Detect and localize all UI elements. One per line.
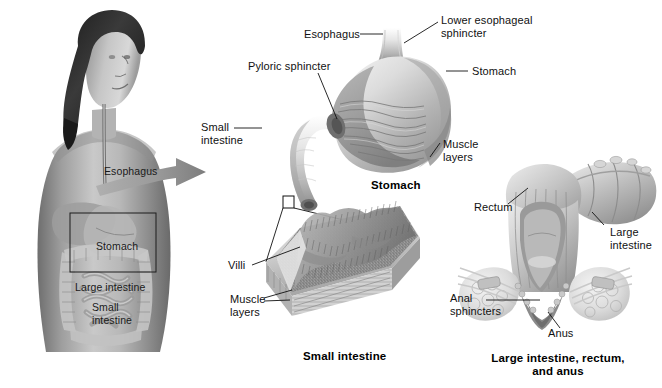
body-label-stomach: Stomach: [96, 240, 138, 253]
stomach-label-pyloric-sphincter: Pyloric sphincter: [248, 60, 330, 73]
large-intestine-label-anus: Anus: [548, 327, 573, 340]
small-intestine-label-villi: Villi: [228, 259, 245, 272]
stomach-label-stomach: Stomach: [472, 65, 516, 78]
large-intestine-label-large-intestine: Large intestine: [610, 226, 652, 251]
small-intestine-label-muscle-layers: Muscle layers: [230, 293, 265, 318]
stomach-label-lower-esophageal-sphincter: Lower esophageal sphincter: [441, 14, 533, 39]
small-intestine-panel-art: [252, 196, 420, 316]
body-label-small-intestine: Small intestine: [92, 301, 132, 326]
large-intestine-panel-caption: Large intestine, rectum, and anus: [466, 352, 650, 378]
small-intestine-panel-caption: Small intestine: [303, 350, 386, 363]
digestive-system-figure: Esophagus Stomach Large intestine Small …: [0, 0, 662, 388]
stomach-panel-caption: Stomach: [371, 179, 421, 192]
stomach-label-muscle-layers: Muscle layers: [443, 138, 478, 163]
body-label-esophagus: Esophagus: [104, 165, 157, 178]
body-label-large-intestine: Large intestine: [75, 281, 145, 294]
large-intestine-label-rectum: Rectum: [474, 201, 513, 214]
stomach-label-esophagus: Esophagus: [304, 28, 360, 41]
stomach-label-small-intestine: Small intestine: [201, 121, 243, 146]
large-intestine-label-anal-sphincters: Anal sphincters: [450, 292, 501, 317]
stomach-panel-art: [234, 22, 468, 211]
